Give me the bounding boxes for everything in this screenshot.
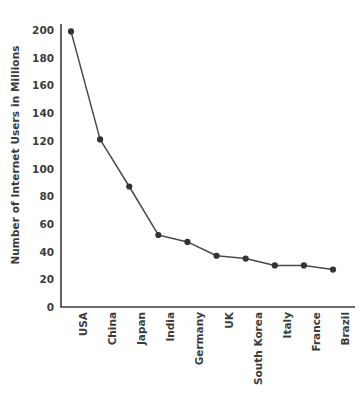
- x-axis-tick-label: India: [158, 312, 170, 342]
- data-point-markers: [68, 28, 336, 272]
- x-axis-tick-label: China: [100, 312, 112, 345]
- x-axis-tick-label: Brazil: [333, 312, 345, 346]
- data-point: [301, 262, 307, 268]
- data-point: [97, 136, 103, 142]
- x-axis-tick-label-text: Brazil: [339, 312, 351, 346]
- y-axis-tick-label: 100: [26, 163, 54, 175]
- y-axis-tick-label: 180: [26, 52, 54, 64]
- x-axis-tick-label: South Korea: [246, 312, 258, 385]
- line-chart-svg: [60, 24, 355, 310]
- axis-lines: [60, 24, 355, 307]
- x-axis-tick-label-text: South Korea: [252, 312, 264, 385]
- x-axis-tick-label: USA: [71, 312, 83, 336]
- x-axis-tick-label-text: Japan: [135, 312, 147, 345]
- data-point: [243, 255, 249, 261]
- y-axis-tick-label: 160: [26, 79, 54, 91]
- x-axis-tick-label: UK: [217, 312, 229, 329]
- x-axis-tick-label: Italy: [275, 312, 287, 338]
- y-axis-tick-label: 40: [26, 246, 54, 258]
- x-axis-tick-label-text: Germany: [193, 312, 205, 365]
- x-axis-tick-label: Japan: [129, 312, 141, 345]
- x-axis-tick-label-text: USA: [77, 312, 89, 336]
- y-axis-title-text: Number of Internet Users in Millions: [9, 45, 21, 264]
- x-axis-tick-label: Germany: [187, 312, 199, 365]
- y-axis-tick-label: 20: [26, 273, 54, 285]
- y-axis-tick-label: 120: [26, 135, 54, 147]
- y-axis-tick-label: 140: [26, 107, 54, 119]
- data-point: [184, 239, 190, 245]
- y-axis-tick-label: 80: [26, 190, 54, 202]
- data-point: [213, 253, 219, 259]
- data-point: [126, 183, 132, 189]
- x-axis-tick-label-text: Italy: [281, 312, 293, 338]
- x-axis-tick-label-text: India: [164, 312, 176, 342]
- data-point: [68, 28, 74, 34]
- data-line: [71, 31, 333, 269]
- x-axis-tick-label-text: China: [106, 312, 118, 345]
- x-axis-tick-label-text: France: [310, 312, 322, 352]
- y-axis-title: Number of Internet Users in Millions: [0, 0, 30, 310]
- x-axis-tick-label: France: [304, 312, 316, 352]
- x-axis-tick-label-text: UK: [223, 312, 235, 329]
- y-axis-tick-labels: 020406080100120140160180200: [26, 0, 54, 396]
- y-axis-tick-label: 60: [26, 218, 54, 230]
- data-point: [272, 262, 278, 268]
- chart-figure: Number of Internet Users in Millions 020…: [0, 0, 363, 396]
- y-axis-tick-label: 200: [26, 24, 54, 36]
- data-point: [330, 267, 336, 273]
- y-axis-tick-label: 0: [26, 301, 54, 313]
- x-axis-tick-labels: USAChinaJapanIndiaGermanyUKSouth KoreaIt…: [60, 312, 355, 396]
- plot-area: [60, 24, 355, 310]
- data-point: [155, 232, 161, 238]
